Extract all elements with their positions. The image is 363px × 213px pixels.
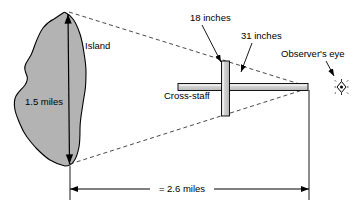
observer-eye-label: Observer's eye <box>281 48 345 59</box>
cross-staff-vertical-bar <box>222 61 230 116</box>
cross-staff-label: Cross-staff <box>164 90 210 101</box>
eye-icon <box>335 79 349 95</box>
island-height-label: 1.5 miles <box>25 96 63 107</box>
diagram-canvas: Island 1.5 miles Cross-staff 18 inches 3… <box>0 0 363 213</box>
observer-eye-leader-line <box>326 61 334 76</box>
island-label: Island <box>85 40 110 51</box>
baseline-distance-label: = 2.6 miles <box>159 183 205 194</box>
staff-length-leader-line <box>241 43 252 72</box>
cross-staff-diagram: Island 1.5 miles Cross-staff 18 inches 3… <box>0 0 363 213</box>
cross-piece-length-label: 18 inches <box>190 12 231 23</box>
staff-length-label: 31 inches <box>241 30 282 41</box>
island-shape <box>14 12 86 166</box>
